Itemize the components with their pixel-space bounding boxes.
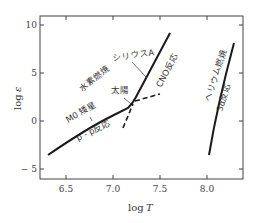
sirius-a-label: シリウスA: [112, 47, 155, 63]
y-axis-label: log ε: [12, 87, 23, 110]
m0-leader: [90, 117, 92, 121]
y-axis-label-var: ε: [12, 87, 23, 92]
energy-generation-chart: 10 5 0 − 5 6.5 7.0 7.5 8.0 log T log ε 水…: [0, 0, 260, 223]
x-tick-label: 6.5: [59, 184, 74, 194]
x-axis-label-log: log: [128, 202, 144, 213]
sun-leader: [124, 98, 131, 104]
y-tick-label: 5: [31, 68, 37, 78]
pp-reaction-label: p - p反応: [74, 117, 112, 142]
x-tick-label: 7.0: [106, 184, 121, 194]
x-tick-label: 8.0: [200, 184, 215, 194]
sirius-leader: [132, 62, 147, 78]
sun-label: 太陽: [111, 85, 129, 95]
x-tick-label: 7.5: [153, 184, 168, 194]
triple-alpha-label: 3α反応: [214, 82, 232, 113]
m0-dwarf-label: M0 矮星: [64, 99, 98, 124]
pp-extension-dashed: [135, 94, 160, 101]
y-axis-label-log: log: [12, 94, 23, 110]
y-tick-label: − 5: [21, 164, 37, 174]
hydrogen-burning-label: 水素燃焼: [77, 64, 112, 94]
y-tick-label: 0: [31, 116, 37, 126]
x-axis-label-var: T: [146, 202, 154, 213]
x-axis-label: log T: [128, 202, 154, 213]
y-tick-label: 10: [26, 20, 38, 30]
